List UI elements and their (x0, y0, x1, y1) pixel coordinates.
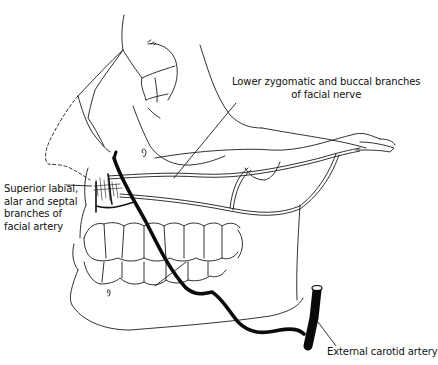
external-carotid-artery (308, 290, 317, 346)
nasal-bone-outline (78, 15, 124, 96)
label-line: External carotid artery (327, 346, 438, 359)
label-line: Superior labial, (4, 183, 78, 196)
facial-artery (114, 158, 304, 334)
label-line: alar and septal (4, 196, 78, 209)
label-external-carotid: External carotid artery (327, 346, 438, 359)
label-line: branches of (4, 208, 78, 221)
label-line: facial artery (4, 221, 78, 234)
label-line: Lower zygomatic and buccal branches (232, 76, 420, 89)
label-facial-artery-branches: Superior labial, alar and septal branche… (4, 183, 78, 233)
label-facial-nerve-branches: Lower zygomatic and buccal branches of f… (232, 76, 420, 101)
label-line: of facial nerve (232, 89, 420, 102)
